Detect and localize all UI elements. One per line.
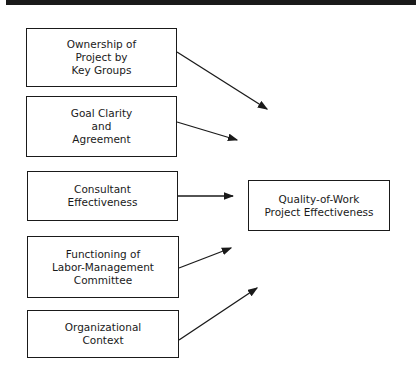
factor-label: Ownership of Project by Key Groups [67,38,136,77]
arrow-ownership [177,52,267,109]
arrow-organizational [179,288,257,340]
arrow-labor-management [179,248,231,268]
factor-label: Functioning of Labor-Management Committe… [52,248,154,287]
outcome-box: Quality-of-Work Project Effectiveness [248,180,390,231]
factor-box-organizational: Organizational Context [27,310,179,358]
factor-box-ownership: Ownership of Project by Key Groups [26,28,177,87]
factor-label: Consultant Effectiveness [68,183,138,209]
factor-label: Organizational Context [65,321,141,347]
outcome-label: Quality-of-Work Project Effectiveness [264,193,373,219]
factor-box-goal-clarity: Goal Clarity and Agreement [26,96,177,157]
factor-box-consultant: Consultant Effectiveness [27,171,178,221]
factor-box-labor-management: Functioning of Labor-Management Committe… [27,236,179,298]
factor-label: Goal Clarity and Agreement [71,107,133,146]
arrow-goal-clarity [177,122,237,140]
